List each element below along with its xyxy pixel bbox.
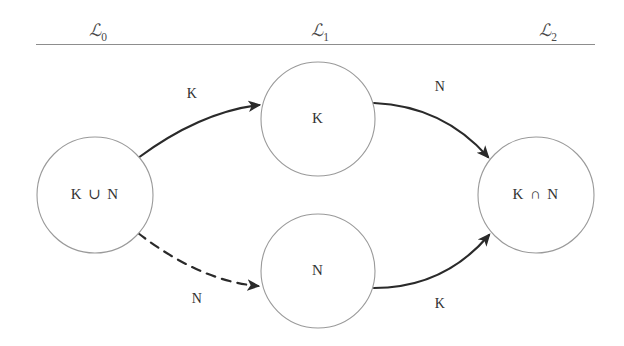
edge-k-to-intersection-label: N bbox=[435, 79, 446, 94]
edge-k-to-intersection-path bbox=[374, 103, 488, 157]
node-n-label: N bbox=[312, 262, 324, 278]
node-intersection-label: K ∩ N bbox=[513, 186, 560, 202]
node-union-label: K ∪ N bbox=[71, 186, 120, 202]
node-n: N bbox=[261, 214, 375, 328]
figure-root: ℒ0 ℒ1 ℒ2 K N N bbox=[0, 0, 624, 346]
header-label-level-0: ℒ0 bbox=[89, 21, 107, 43]
edge-n-to-intersection-path bbox=[374, 235, 489, 288]
node-k-label: K bbox=[312, 110, 324, 126]
edge-union-to-k-path bbox=[138, 105, 259, 158]
edge-union-to-k: K bbox=[138, 86, 259, 158]
node-union: K ∪ N bbox=[37, 137, 153, 253]
node-group: K ∪ N K N K ∩ N bbox=[37, 62, 594, 328]
edge-k-to-intersection: N bbox=[374, 79, 488, 157]
node-k: K bbox=[261, 62, 375, 176]
edge-union-to-k-label: K bbox=[187, 86, 198, 101]
edge-union-to-n-path bbox=[138, 233, 258, 286]
header-label-level-1: ℒ1 bbox=[311, 21, 329, 43]
edge-union-to-n-label: N bbox=[192, 291, 203, 306]
edge-n-to-intersection: K bbox=[374, 235, 489, 311]
edge-n-to-intersection-label: K bbox=[435, 296, 446, 311]
level-diagram: ℒ0 ℒ1 ℒ2 K N N bbox=[0, 0, 624, 346]
node-intersection: K ∩ N bbox=[478, 137, 594, 253]
header-row: ℒ0 ℒ1 ℒ2 bbox=[36, 21, 595, 45]
header-label-level-2: ℒ2 bbox=[539, 21, 557, 43]
edge-union-to-n: N bbox=[138, 233, 258, 306]
